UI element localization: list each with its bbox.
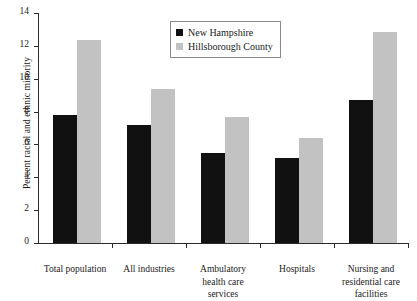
y-tick-label: 10 <box>20 72 30 82</box>
bar-hillsborough-county <box>77 40 101 243</box>
y-tick-label: 14 <box>20 6 30 16</box>
bar-group <box>334 13 408 243</box>
bar-hillsborough-county <box>151 89 175 243</box>
bar-new-hampshire <box>349 100 373 243</box>
bar-group <box>38 13 112 243</box>
x-tick <box>334 243 335 248</box>
x-tick <box>260 243 261 248</box>
legend-swatch-icon <box>176 29 183 36</box>
category-label-line: residential care <box>328 276 414 289</box>
bar-new-hampshire <box>275 158 299 243</box>
y-tick-label: 2 <box>24 203 29 213</box>
x-axis-line <box>38 243 408 244</box>
bar-hillsborough-county <box>225 117 249 243</box>
x-tick <box>408 243 409 248</box>
legend-label: New Hampshire <box>188 27 253 38</box>
y-tick: 0 <box>34 243 39 244</box>
y-tick-label: 0 <box>24 236 29 246</box>
x-tick <box>112 243 113 248</box>
y-tick-label: 12 <box>20 39 30 49</box>
y-tick-label: 8 <box>24 105 29 115</box>
category-label-line: facilities <box>328 288 414 301</box>
legend-label: Hillsborough County <box>188 41 273 52</box>
y-axis-title: Percent racial and ethnic minority <box>22 28 32 218</box>
bar-hillsborough-county <box>299 138 323 243</box>
legend: New Hampshire Hillsborough County <box>170 21 281 58</box>
y-tick-label: 6 <box>24 137 29 147</box>
x-tick <box>186 243 187 248</box>
y-tick-label: 4 <box>24 170 29 180</box>
category-label-line: Nursing and <box>328 263 414 276</box>
category-label-line: services <box>180 288 266 301</box>
bar-new-hampshire <box>53 115 77 243</box>
category-label-line: health care <box>180 276 266 289</box>
legend-item-series-0: New Hampshire <box>176 25 273 39</box>
legend-swatch-icon <box>176 43 183 50</box>
bar-new-hampshire <box>201 153 225 243</box>
bar-new-hampshire <box>127 125 151 243</box>
legend-item-series-1: Hillsborough County <box>176 39 273 53</box>
category-label: Nursing andresidential carefacilities <box>328 263 414 301</box>
bar-hillsborough-county <box>373 32 397 243</box>
